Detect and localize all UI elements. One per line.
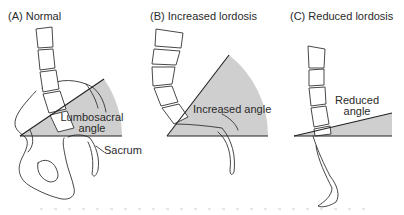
lumbar-spine: [308, 46, 331, 136]
sacrum-outline: [68, 135, 99, 176]
panel-a-title: (A) Normal: [8, 10, 61, 22]
panel-c-title: (C) Reduced lordosis: [290, 10, 393, 22]
panel-c-figure: [294, 46, 392, 207]
obturator-foramen: [38, 160, 58, 182]
panel-b-title: (B) Increased lordosis: [150, 10, 257, 22]
bleed-through-marks: [40, 208, 370, 210]
sacrum-outline: [313, 136, 338, 207]
lumbar-spine: [152, 29, 188, 124]
panel-b-figure: [152, 29, 268, 174]
increased-angle-label: Increased angle: [193, 104, 271, 115]
lumbosacral-angle-label-line2: angle: [57, 123, 127, 134]
sacrum-label: Sacrum: [104, 145, 142, 156]
reduced-angle-label-line2: angle: [327, 106, 387, 117]
